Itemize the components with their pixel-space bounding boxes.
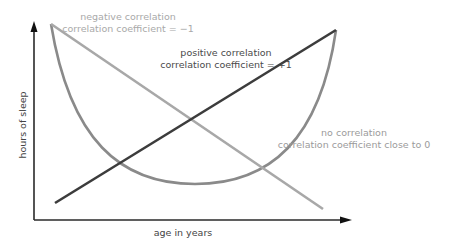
no-correlation-label: no correlation correlation coefficient c… [278,127,431,151]
negative-correlation-title: negative correlation [62,11,194,23]
correlation-diagram [0,0,449,248]
x-axis-label: age in years [154,227,213,238]
no-correlation-coefficient: correlation coefficient close to 0 [278,139,431,151]
positive-correlation-label: positive correlation correlation coeffic… [160,47,292,71]
x-axis-arrow-icon [340,217,352,224]
no-correlation-title: no correlation [278,127,431,139]
positive-correlation-title: positive correlation [160,47,292,59]
positive-correlation-coefficient: correlation coefficient = +1 [160,59,292,71]
negative-correlation-coefficient: correlation coefficient = −1 [62,23,194,35]
y-axis-label: hours of sleep [17,91,28,158]
y-axis-arrow-icon [31,21,38,32]
negative-correlation-label: negative correlation correlation coeffic… [62,11,194,35]
